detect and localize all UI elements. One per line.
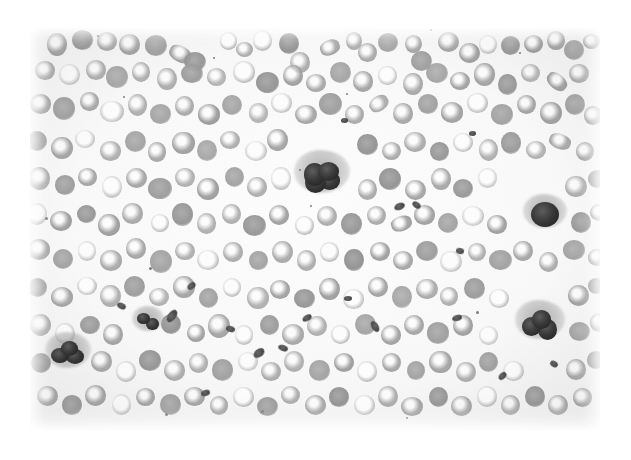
red-blood-cell xyxy=(501,36,520,55)
red-blood-cell xyxy=(98,214,120,236)
red-blood-cell xyxy=(30,167,50,189)
red-blood-cell xyxy=(590,313,600,331)
red-blood-cell xyxy=(148,142,166,161)
red-blood-cell xyxy=(468,243,486,261)
red-blood-cell xyxy=(487,215,507,234)
red-blood-cell xyxy=(80,316,99,334)
figure-root xyxy=(0,0,631,460)
red-blood-cell xyxy=(172,203,193,225)
red-blood-cell xyxy=(157,68,177,90)
red-blood-cell xyxy=(126,168,147,188)
red-blood-cell xyxy=(223,242,242,262)
red-blood-cell xyxy=(62,395,82,414)
red-blood-cell xyxy=(590,204,600,221)
red-blood-cell xyxy=(85,385,106,406)
red-blood-cell xyxy=(588,170,600,188)
red-blood-cell xyxy=(164,360,185,380)
red-blood-cell xyxy=(220,131,240,149)
red-blood-cell xyxy=(318,37,342,59)
debris-speck xyxy=(149,267,152,270)
platelet xyxy=(369,319,381,333)
red-blood-cell xyxy=(271,167,292,190)
debris-speck xyxy=(346,93,348,95)
red-blood-cell xyxy=(320,242,340,262)
red-blood-cell xyxy=(172,132,194,155)
red-blood-cell xyxy=(189,353,208,372)
red-blood-cell xyxy=(198,104,220,124)
red-blood-cell xyxy=(210,396,228,415)
red-blood-cell xyxy=(257,397,278,416)
red-blood-cell xyxy=(256,72,279,93)
red-blood-cell xyxy=(100,250,121,271)
debris-speck xyxy=(430,29,432,31)
red-blood-cell xyxy=(441,102,463,123)
red-blood-cell xyxy=(136,388,155,406)
red-blood-cell xyxy=(381,325,401,345)
platelet xyxy=(225,325,235,333)
red-blood-cell xyxy=(184,387,205,406)
debris-speck xyxy=(519,52,521,54)
red-blood-cell xyxy=(223,278,242,297)
red-blood-cell xyxy=(358,179,377,200)
red-blood-cell xyxy=(404,315,424,335)
red-blood-cell xyxy=(503,361,523,381)
red-blood-cell xyxy=(126,238,146,259)
red-blood-cell xyxy=(294,289,314,308)
blood-smear-photomicrograph xyxy=(30,28,600,430)
red-blood-cell xyxy=(501,132,520,153)
red-blood-cell xyxy=(139,350,161,372)
red-blood-cell xyxy=(403,73,424,96)
debris-speck xyxy=(310,205,312,207)
red-blood-cell xyxy=(233,61,256,83)
red-blood-cell xyxy=(426,63,447,83)
red-blood-cell xyxy=(75,130,94,148)
red-blood-cell xyxy=(122,203,143,224)
red-blood-cell xyxy=(489,289,509,308)
red-blood-cell xyxy=(358,43,377,63)
debris-speck xyxy=(97,35,99,37)
red-blood-cell xyxy=(378,33,397,52)
red-blood-cell xyxy=(491,104,512,125)
red-blood-cell xyxy=(392,286,412,309)
red-blood-cell xyxy=(106,66,128,88)
red-blood-cell xyxy=(51,287,73,307)
red-blood-cell xyxy=(382,142,402,161)
red-blood-cell xyxy=(583,34,600,50)
red-blood-cell xyxy=(116,361,136,381)
platelet xyxy=(393,201,406,211)
red-blood-cell xyxy=(50,211,71,231)
red-blood-cell xyxy=(245,141,267,162)
red-blood-cell xyxy=(100,141,122,161)
red-blood-cell xyxy=(175,168,195,188)
red-blood-cell xyxy=(341,213,362,234)
red-blood-cell xyxy=(378,386,398,407)
red-blood-cell xyxy=(357,134,378,155)
red-blood-cell xyxy=(199,288,218,308)
red-blood-cell xyxy=(547,31,565,49)
red-blood-cell xyxy=(467,93,488,112)
red-blood-cell xyxy=(309,360,330,381)
red-blood-cell xyxy=(295,216,313,235)
platelet xyxy=(549,359,559,368)
red-blood-cell xyxy=(53,97,75,120)
red-blood-cell xyxy=(464,278,485,299)
red-blood-cell xyxy=(450,72,470,91)
red-blood-cell xyxy=(305,395,326,415)
red-blood-cell xyxy=(456,362,476,383)
red-blood-cell xyxy=(281,386,301,405)
red-blood-cell xyxy=(269,205,289,225)
red-blood-cell xyxy=(418,94,438,114)
red-blood-cell xyxy=(430,142,449,162)
red-blood-cell xyxy=(370,242,390,261)
red-blood-cell xyxy=(124,276,146,297)
debris-speck xyxy=(476,311,479,314)
red-blood-cell xyxy=(225,167,244,187)
red-blood-cell xyxy=(30,94,51,113)
red-blood-cell xyxy=(489,250,511,270)
red-blood-cell xyxy=(521,64,540,82)
red-blood-cell xyxy=(197,178,219,200)
red-blood-cell xyxy=(587,351,600,369)
red-blood-cell xyxy=(584,106,600,125)
platelet xyxy=(277,343,288,352)
red-blood-cell xyxy=(282,324,305,345)
